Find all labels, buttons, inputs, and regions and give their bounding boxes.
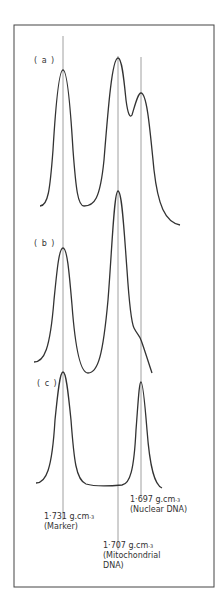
panel-label-a: ( a ) [34, 56, 55, 65]
mito-name: (Mitochondrial [103, 551, 160, 561]
marker-name: (Marker) [44, 522, 94, 532]
trace-a [40, 58, 180, 225]
nuclear-exp: -3 [175, 497, 180, 503]
mito-label: 1·707 g.cm-3 (Mitochondrial DNA) [103, 541, 160, 571]
trace-c [36, 372, 162, 488]
nuclear-name: (Nuclear DNA) [130, 505, 187, 515]
marker-label: 1·731 g.cm-3 (Marker) [44, 512, 94, 532]
mito-name2: DNA) [103, 561, 160, 571]
mito-exp: -3 [148, 543, 153, 549]
marker-exp: -3 [89, 514, 94, 520]
nuclear-density: 1·697 g.cm [130, 495, 175, 504]
trace-b [34, 191, 152, 373]
density-profile-figure [0, 0, 223, 609]
panel-label-b: ( b ) [34, 239, 55, 248]
nuclear-label: 1·697 g.cm-3 (Nuclear DNA) [130, 495, 187, 515]
marker-density: 1·731 g.cm [44, 512, 89, 521]
panel-label-c: ( c ) [37, 379, 58, 388]
mito-density: 1·707 g.cm [103, 541, 148, 550]
